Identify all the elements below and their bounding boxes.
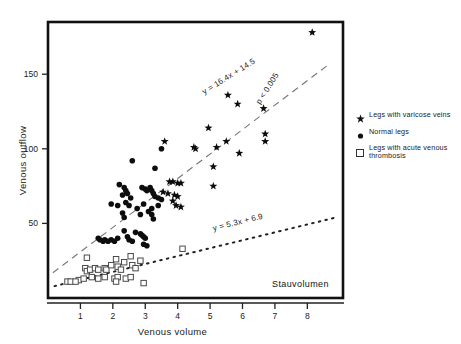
x-axis-title: Venous volume (0, 326, 345, 337)
data-point (84, 255, 89, 260)
x-tick-label: 5 (198, 311, 222, 321)
data-point (125, 191, 131, 197)
x-tick-label: 3 (133, 311, 157, 321)
y-tick-label: 100 (8, 144, 38, 154)
y-axis-title: Venous outflow (17, 101, 28, 221)
stauvolumen-annotation: Stauvolumen (272, 279, 329, 289)
legend-item-normal: Normal legs (355, 127, 461, 137)
y-tick-label: 150 (8, 69, 38, 79)
data-point (159, 197, 165, 203)
data-point (138, 212, 144, 218)
x-tick-label: 2 (101, 311, 125, 321)
data-point (133, 230, 139, 236)
data-point (73, 279, 78, 284)
data-point (141, 280, 146, 285)
data-point (152, 165, 158, 171)
legend-label-thrombosis: Legs with acute venous thrombosis (369, 144, 461, 161)
x-tick-label: 1 (68, 311, 92, 321)
legend-label-varicose: Legs with varicose veins (369, 111, 451, 119)
y-tick-label: 50 (8, 218, 38, 228)
data-point (96, 276, 101, 281)
data-point (117, 182, 123, 188)
data-point (138, 258, 143, 263)
data-point (180, 246, 185, 251)
data-point (113, 257, 118, 262)
plot-canvas (0, 0, 461, 344)
data-point (142, 236, 148, 242)
data-point (151, 216, 157, 222)
legend-item-thrombosis: Legs with acute venous thrombosis (355, 144, 461, 161)
legend-item-varicose: Legs with varicose veins (355, 110, 461, 120)
circle-icon (355, 127, 366, 137)
data-point (141, 201, 147, 207)
data-point (115, 203, 121, 209)
data-point (159, 146, 165, 152)
data-point (115, 236, 121, 242)
data-point (113, 279, 118, 284)
data-point (96, 267, 101, 272)
data-point (121, 228, 127, 234)
data-point (81, 276, 86, 281)
data-point (144, 243, 150, 249)
x-tick-marks (80, 303, 307, 309)
data-point (128, 254, 133, 259)
data-point (155, 203, 161, 209)
data-point (109, 262, 114, 267)
data-point (129, 158, 135, 164)
x-tick-label: 6 (231, 311, 255, 321)
plot-frame (48, 22, 343, 298)
star-icon (355, 110, 366, 120)
data-point (129, 239, 135, 245)
scatter-plot-figure: Venous volume Venous outflow 12345678 50… (0, 0, 461, 344)
square-icon (355, 147, 366, 157)
data-point (118, 267, 123, 272)
data-point (102, 274, 107, 279)
data-point (133, 265, 138, 270)
data-point (128, 274, 133, 279)
x-tick-label: 7 (263, 311, 287, 321)
legend: Legs with varicose veins Normal legs Leg… (355, 110, 461, 168)
x-tick-label: 8 (295, 311, 319, 321)
data-point (108, 201, 114, 207)
data-point (128, 195, 134, 201)
data-point (120, 192, 126, 198)
data-point (134, 206, 140, 212)
data-point (121, 259, 126, 264)
legend-label-normal: Normal legs (369, 128, 409, 136)
x-tick-label: 4 (166, 311, 190, 321)
data-point (126, 203, 132, 209)
data-point (121, 215, 127, 221)
data-point (89, 274, 94, 279)
